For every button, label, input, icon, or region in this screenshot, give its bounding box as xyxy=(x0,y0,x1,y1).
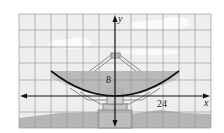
width-value-label: 24 xyxy=(157,99,167,109)
y-axis-label: y xyxy=(118,14,122,24)
parabolic-dish-figure xyxy=(0,0,224,133)
height-value-label: 8 xyxy=(106,75,111,85)
x-axis-label: x xyxy=(204,98,208,108)
